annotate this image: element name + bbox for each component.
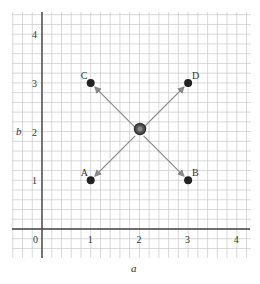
y-tick-label: 1 (32, 175, 37, 186)
x-tick-label: 0 (33, 234, 38, 245)
y-tick-label: 2 (32, 127, 37, 138)
y-tick-label: 3 (32, 78, 37, 89)
x-tick-label: 4 (234, 234, 239, 245)
arrow-b (144, 136, 184, 176)
coordinate-diagram: 012341234 ABCD a b (0, 0, 260, 284)
point-d (184, 79, 192, 87)
point-label-b: B (192, 167, 199, 178)
point-b (184, 176, 192, 184)
point-c (87, 79, 95, 87)
y-axis-label: b (16, 125, 22, 137)
x-tick-label: 1 (88, 234, 93, 245)
point-label-a: A (81, 167, 89, 178)
center-point (135, 124, 146, 135)
grid-lines (12, 12, 251, 258)
grid-plot: 012341234 ABCD a b (0, 0, 260, 284)
arrow-d (144, 87, 184, 127)
x-tick-label: 3 (185, 234, 190, 245)
point-label-d: D (192, 70, 199, 81)
y-tick-label: 4 (32, 29, 37, 40)
arrow-a (95, 136, 135, 176)
arrow-c (95, 87, 135, 127)
point-label-c: C (81, 70, 88, 81)
x-axis-label: a (131, 262, 137, 274)
x-tick-label: 2 (136, 234, 141, 245)
